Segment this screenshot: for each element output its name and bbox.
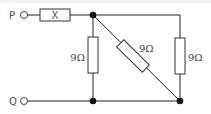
terminal-q-icon: [21, 98, 28, 105]
junction-bottom-left-icon: [90, 98, 97, 105]
resistor-diagonal-label: 9Ω: [139, 43, 154, 54]
junction-bottom-right-icon: [177, 98, 184, 105]
resistor-right-label: 9Ω: [188, 52, 203, 63]
resistor-right: [175, 38, 185, 74]
resistor-x-label: X: [52, 10, 59, 21]
resistor-left-label: 9Ω: [70, 52, 85, 63]
terminal-q-label: Q: [9, 96, 17, 107]
terminal-p-icon: [21, 12, 28, 19]
junction-top-left-icon: [90, 12, 97, 19]
circuit-diagram: P X 9Ω 9Ω 9Ω Q: [0, 0, 211, 114]
terminal-p-label: P: [9, 10, 15, 21]
resistor-left: [88, 37, 98, 73]
